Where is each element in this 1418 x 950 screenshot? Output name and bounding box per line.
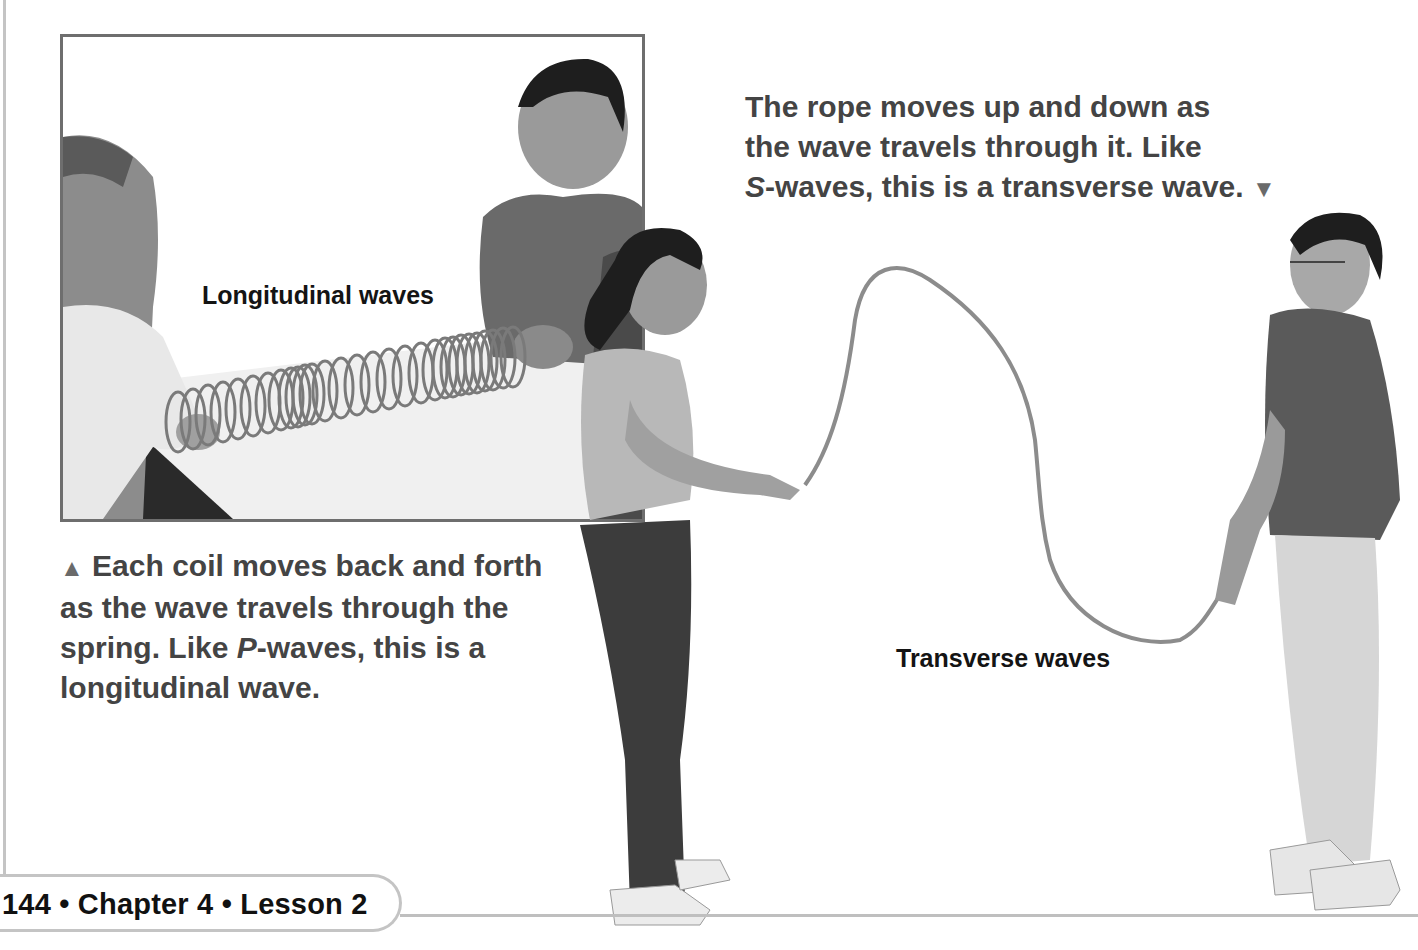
- p-waves-italic: P: [237, 631, 257, 664]
- down-triangle-icon: ▼: [1252, 175, 1276, 202]
- up-triangle-icon: ▲: [60, 554, 84, 581]
- longitudinal-caption-line-1-text: Each coil moves back and forth: [92, 549, 542, 582]
- longitudinal-caption-line-1: ▲ Each coil moves back and forth: [60, 546, 540, 588]
- page-rule-left: [3, 0, 6, 876]
- s-waves-italic: S: [745, 170, 765, 203]
- page-footer: 144 • Chapter 4 • Lesson 2: [2, 888, 368, 921]
- transverse-wave-photo: [570, 200, 1418, 950]
- longitudinal-caption: ▲ Each coil moves back and forth as the …: [60, 546, 540, 708]
- page-rule-bottom: [400, 914, 1418, 917]
- longitudinal-waves-label: Longitudinal waves: [202, 281, 434, 310]
- transverse-caption: The rope moves up and down as the wave t…: [745, 87, 1305, 209]
- transverse-caption-line-3-text: -waves, this is a transverse wave.: [765, 170, 1244, 203]
- longitudinal-wave-photo: [60, 34, 645, 522]
- transverse-caption-line-3: S-waves, this is a transverse wave. ▼: [745, 167, 1305, 209]
- longitudinal-caption-line-3-post: -waves, this is a: [257, 631, 485, 664]
- transverse-caption-line-1: The rope moves up and down as: [745, 87, 1305, 127]
- transverse-caption-line-2: the wave travels through it. Like: [745, 127, 1305, 167]
- longitudinal-caption-line-3-pre: spring. Like: [60, 631, 237, 664]
- longitudinal-caption-line-2: as the wave travels through the: [60, 588, 540, 628]
- transverse-waves-label: Transverse waves: [896, 644, 1110, 673]
- longitudinal-caption-line-4: longitudinal wave.: [60, 668, 540, 708]
- longitudinal-caption-line-3: spring. Like P-waves, this is a: [60, 628, 540, 668]
